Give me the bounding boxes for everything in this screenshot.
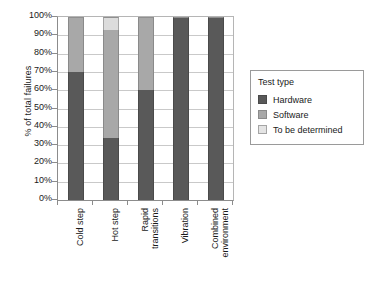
legend-entry-label: To be determined	[273, 125, 343, 135]
bar-column	[173, 17, 189, 200]
legend-swatch-icon	[258, 110, 267, 119]
y-axis-tick-label: 70%	[6, 66, 52, 75]
y-axis-tick-label: 80%	[6, 48, 52, 57]
bar-segment	[173, 17, 189, 200]
x-axis-category-line: Hot step	[110, 208, 120, 242]
x-axis-tick-mark	[127, 200, 128, 205]
bar-segment	[208, 17, 224, 200]
plot-area	[57, 16, 234, 201]
x-axis-tick-mark	[197, 200, 198, 205]
x-axis-category-line: Vibration	[180, 208, 190, 243]
legend-entries: HardwareSoftwareTo be determined	[258, 92, 356, 137]
x-axis-tick-mark	[92, 200, 93, 205]
y-axis-tick-label: 20%	[6, 157, 52, 166]
y-axis-tick-label: 10%	[6, 176, 52, 185]
bar-segment	[103, 17, 119, 30]
x-axis-tick-mark	[232, 200, 233, 205]
stacked-bar-chart: % of total failures 0%10%20%30%40%50%60%…	[0, 0, 374, 282]
y-axis-tick-label: 30%	[6, 139, 52, 148]
bar-segment	[103, 30, 119, 138]
legend-entry-label: Software	[273, 110, 309, 120]
x-axis-tick-mark	[162, 200, 163, 205]
x-axis-category-line: environment	[220, 208, 230, 276]
bar-segment	[68, 72, 84, 200]
legend-swatch-icon	[258, 125, 267, 134]
bar-column	[103, 17, 119, 200]
bar-segment	[138, 90, 154, 200]
x-axis-category-line: Rapid	[140, 208, 150, 232]
x-axis-category-line: transitions	[150, 208, 160, 276]
x-axis-category-line: Combined	[210, 208, 220, 249]
legend-swatch-icon	[258, 95, 267, 104]
y-axis-tick-label: 0%	[6, 194, 52, 203]
bar-segment	[68, 17, 84, 72]
bar-column	[208, 17, 224, 200]
legend-entry-label: Hardware	[273, 95, 312, 105]
legend: Test type HardwareSoftwareTo be determin…	[250, 70, 364, 145]
y-axis-tick-label: 100%	[6, 11, 52, 20]
bar-segment	[138, 17, 154, 90]
legend-entry: Software	[258, 107, 356, 122]
x-axis-category-line: Cold step	[75, 208, 85, 246]
bar-column	[138, 17, 154, 200]
bar-column	[68, 17, 84, 200]
y-axis-tick-label: 40%	[6, 121, 52, 130]
y-axis-tick-label: 50%	[6, 103, 52, 112]
legend-title: Test type	[258, 77, 356, 88]
y-axis-tick-label: 60%	[6, 84, 52, 93]
legend-entry: To be determined	[258, 122, 356, 137]
legend-entry: Hardware	[258, 92, 356, 107]
x-axis-tick-mark	[57, 200, 58, 205]
bar-segment	[103, 138, 119, 200]
y-axis-tick-label: 90%	[6, 29, 52, 38]
